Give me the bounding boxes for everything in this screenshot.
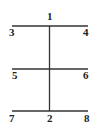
label-point-1: 1	[47, 10, 53, 22]
label-point-2: 2	[47, 112, 53, 124]
label-point-8: 8	[84, 112, 90, 124]
line-diagram: 1 3 4 5 6 7 2 8	[0, 0, 102, 139]
label-point-6: 6	[83, 69, 89, 81]
label-point-5: 5	[12, 69, 18, 81]
label-point-4: 4	[83, 26, 89, 38]
label-point-7: 7	[9, 112, 15, 124]
label-point-3: 3	[9, 26, 15, 38]
